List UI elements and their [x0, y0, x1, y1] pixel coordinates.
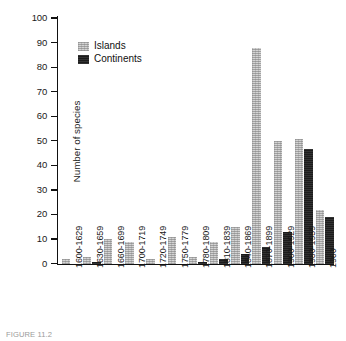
bar-islands: [104, 239, 113, 264]
legend-swatch-continents: [78, 55, 89, 64]
bar-chart-figure: Number of species 0102030405060708090100…: [0, 0, 346, 341]
y-axis-tick-label: 10: [37, 234, 47, 244]
legend-label-islands: Islands: [94, 41, 126, 51]
y-axis-tick: [51, 214, 58, 215]
x-axis-tick-label: 1870-1899: [264, 206, 274, 268]
x-axis-tick-label: 1720-1749: [158, 206, 168, 268]
bar-islands: [168, 237, 177, 264]
y-axis-tick-label: 80: [37, 62, 47, 72]
y-axis-tick: [51, 42, 58, 43]
bar-islands: [210, 242, 219, 264]
y-axis-tick: [51, 91, 58, 92]
chart-legend: Islands Continents: [78, 40, 142, 66]
bar-islands: [231, 227, 240, 264]
x-axis-tick-label: 1660-1699: [116, 206, 126, 268]
x-axis-tick-label: 1840-1869: [243, 206, 253, 268]
x-axis-tick-label: 1930-1959: [307, 206, 317, 268]
y-axis-tick: [51, 140, 58, 141]
y-axis-tick-label: 70: [37, 87, 47, 97]
x-axis-tick-label: 1780-1809: [201, 206, 211, 268]
legend-swatch-islands: [78, 42, 89, 51]
bar-islands: [146, 259, 155, 264]
bar-islands: [125, 242, 134, 264]
y-axis-tick-label: 20: [37, 209, 47, 219]
bar-islands: [62, 259, 71, 264]
bar-islands: [274, 141, 283, 264]
y-axis-tick-label: 100: [32, 13, 47, 23]
figure-caption: FIGURE 11.2: [6, 330, 346, 339]
y-axis-tick: [51, 189, 58, 190]
y-axis-tick: [51, 165, 58, 166]
legend-item-continents: Continents: [78, 53, 142, 65]
x-axis-tick-label: 1750-1779: [180, 206, 190, 268]
legend-label-continents: Continents: [94, 54, 142, 64]
bar-islands: [252, 48, 261, 264]
y-axis-tick-label: 30: [37, 185, 47, 195]
x-axis-tick-label: 1600-1629: [74, 206, 84, 268]
y-axis-tick: [51, 116, 58, 117]
y-axis-tick-label: 90: [37, 38, 47, 48]
y-axis-tick: [51, 238, 58, 239]
legend-item-islands: Islands: [78, 40, 142, 52]
y-axis-tick: [51, 263, 58, 264]
y-axis-tick: [51, 67, 58, 68]
x-axis-tick-label: 1700-1719: [137, 206, 147, 268]
y-axis-tick-label: 50: [37, 136, 47, 146]
x-axis-tick-label: 1810-1839: [222, 206, 232, 268]
y-axis-tick-label: 40: [37, 160, 47, 170]
y-axis-tick-label: 0: [42, 259, 47, 269]
x-axis-tick-label: 1900-1929: [286, 206, 296, 268]
y-axis-tick-label: 60: [37, 111, 47, 121]
x-axis-tick-label: 1960: [328, 206, 338, 268]
x-axis-tick-label: 1630-1659: [95, 206, 105, 268]
y-axis-tick: [51, 17, 58, 18]
bar-islands: [316, 210, 325, 264]
